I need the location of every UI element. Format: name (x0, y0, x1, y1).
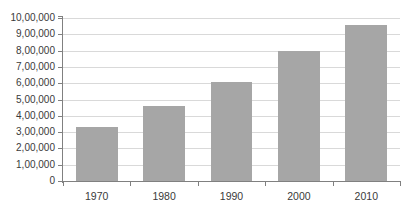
y-tick-mark (58, 132, 63, 133)
x-tick-mark (130, 181, 131, 186)
y-tick-mark (58, 100, 63, 101)
x-tick-mark (265, 181, 266, 186)
y-axis-tick-label: 8,00,000 (16, 46, 55, 56)
y-tick-mark (58, 34, 63, 35)
y-tick-mark (58, 148, 63, 149)
plot-area (63, 18, 400, 181)
x-tick-mark (198, 181, 199, 186)
y-axis-tick-label: 1,00,000 (16, 160, 55, 170)
y-tick-mark (58, 67, 63, 68)
x-axis-tick-label: 1980 (130, 190, 197, 202)
bar-2000 (278, 51, 320, 181)
x-axis-line (62, 181, 401, 182)
x-axis-end-cap (400, 181, 401, 186)
y-axis-tick-label: 7,00,000 (16, 62, 55, 72)
x-tick-mark (333, 181, 334, 186)
y-tick-mark (58, 116, 63, 117)
y-tick-mark (58, 18, 63, 19)
y-tick-mark (58, 83, 63, 84)
y-tick-mark (58, 165, 63, 166)
bar-chart: 10,00,000 9,00,000 8,00,000 7,00,000 6,0… (0, 0, 409, 217)
y-axis-tick-label: 0 (49, 176, 55, 186)
bar-1980 (143, 106, 185, 181)
x-axis-tick-label: 1970 (63, 190, 130, 202)
y-axis-top-cap (58, 16, 63, 17)
y-axis-tick-label: 6,00,000 (16, 78, 55, 88)
bar-1970 (76, 127, 118, 181)
x-tick-mark (63, 181, 64, 186)
bar-2010 (345, 25, 387, 181)
y-axis-tick-label: 10,00,000 (11, 13, 56, 23)
x-axis-tick-label: 2010 (333, 190, 400, 202)
y-tick-mark (58, 51, 63, 52)
x-axis-tick-label: 2000 (265, 190, 332, 202)
y-axis-tick-label: 3,00,000 (16, 127, 55, 137)
gridline (63, 18, 400, 19)
y-axis-tick-label: 2,00,000 (16, 143, 55, 153)
x-axis-tick-label: 1990 (198, 190, 265, 202)
y-axis-tick-label: 4,00,000 (16, 111, 55, 121)
bar-1990 (211, 82, 253, 181)
y-axis-tick-label: 9,00,000 (16, 29, 55, 39)
y-axis-tick-label: 5,00,000 (16, 95, 55, 105)
